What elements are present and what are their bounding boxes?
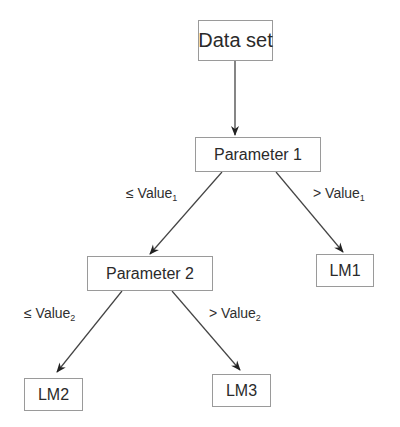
node-lm1: LM1 <box>316 254 374 287</box>
node-lm3: LM3 <box>212 374 271 407</box>
node-label: Data set <box>198 29 272 52</box>
edge-label-p2-right: > Value2 <box>209 305 261 323</box>
edge-param2-lm2 <box>57 291 122 372</box>
node-label: Parameter 2 <box>106 265 194 283</box>
node-label: Parameter 1 <box>214 146 302 164</box>
edge-param2-lm3 <box>172 291 240 370</box>
node-lm2: LM2 <box>24 378 83 411</box>
node-label: LM2 <box>38 386 69 404</box>
decision-tree-diagram: Data set Parameter 1 Parameter 2 LM1 LM2… <box>0 0 400 427</box>
node-parameter-1: Parameter 1 <box>195 137 321 172</box>
node-label: LM1 <box>329 262 360 280</box>
edge-label-p1-right: > Value1 <box>313 185 365 203</box>
node-data-set: Data set <box>198 20 273 61</box>
node-parameter-2: Parameter 2 <box>87 256 213 291</box>
edge-label-p2-left: ≤ Value2 <box>24 305 75 323</box>
edges-layer <box>0 0 400 427</box>
edge-label-p1-left: ≤ Value1 <box>126 185 177 203</box>
edge-param1-lm1 <box>276 172 343 252</box>
node-label: LM3 <box>226 382 257 400</box>
